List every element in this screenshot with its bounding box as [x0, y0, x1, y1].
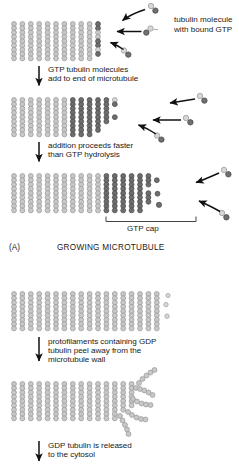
microtubule-stage-2 [12, 93, 208, 142]
free-tubulin-dimer [183, 115, 193, 125]
step-caption-4: GDP tubulin is released to the cytosol [48, 441, 132, 459]
addition-arrow-icon [170, 99, 195, 103]
panel-a-label: (A) [9, 243, 20, 252]
addition-arrow-icon [199, 201, 220, 212]
peeling-protofilament [134, 386, 155, 398]
microtubule-stage-1 [12, 3, 159, 61]
addition-arrow-icon [139, 125, 157, 134]
peeling-protofilament [118, 414, 131, 437]
free-tubulin-dimer [148, 3, 158, 13]
lattice-row [12, 407, 126, 416]
lattice-row [12, 292, 171, 301]
lattice-row [12, 382, 135, 391]
addition-arrow-icon [196, 173, 219, 183]
addition-arrow-icon [111, 43, 124, 50]
gtp-cap-bracket [106, 217, 196, 222]
free-tubulin-dimer [197, 93, 207, 103]
addition-arrow-icon [123, 10, 146, 21]
step-caption-3: protofilaments containing GDP tubulin pe… [48, 337, 156, 364]
free-tubulin-dimer [144, 26, 154, 36]
microtubule-stage-3 [12, 167, 232, 221]
peeling-protofilament [137, 368, 157, 386]
lattice-row [12, 399, 135, 408]
panel-a-title: GROWING MICROTUBULE [57, 243, 165, 252]
free-tubulin-dimer [219, 210, 229, 220]
microtubule-stage-4 [12, 292, 171, 331]
gtp-cap-label: GTP cap [127, 224, 159, 233]
lattice-row [12, 416, 118, 421]
step-caption-1: GTP tubulin molecules add to end of micr… [48, 65, 138, 83]
lattice-row [12, 300, 169, 309]
lattice-row [12, 317, 160, 326]
lattice-row [12, 390, 135, 399]
lattice-row [12, 326, 160, 331]
step-caption-2: addition proceeds faster than GTP hydrol… [48, 141, 133, 159]
microtubule-stage-5 [12, 368, 157, 437]
gdp-tubulin-lattice [12, 22, 101, 61]
tubulin-callout-label: tubulin molecule with bound GTP [174, 15, 233, 34]
free-tubulin-dimer [221, 167, 231, 177]
lattice-row [12, 309, 170, 319]
peeling-protofilament [126, 410, 148, 422]
